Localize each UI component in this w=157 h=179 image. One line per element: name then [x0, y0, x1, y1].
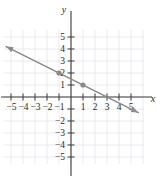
y-tick-label: −4 — [55, 140, 65, 150]
plotted-point — [80, 82, 85, 87]
line-arrowhead-left — [6, 47, 14, 53]
x-tick-label: −1 — [54, 102, 64, 112]
y-tick-label: −3 — [55, 128, 65, 138]
coordinate-plane-figure: −5−4−3−2−11234554321−2−3−4−5 y x — [0, 0, 157, 179]
x-tick-label: 2 — [93, 102, 98, 112]
graph-canvas: −5−4−3−2−11234554321−2−3−4−5 y x — [0, 0, 157, 179]
y-tick-label: 5 — [60, 32, 65, 42]
x-tick-label: 1 — [81, 102, 86, 112]
y-tick-label: 4 — [60, 44, 65, 54]
y-tick-label: 3 — [60, 56, 65, 66]
x-tick-label: −5 — [6, 102, 16, 112]
y-axis-label: y — [61, 4, 67, 15]
x-tick-label: 3 — [105, 102, 110, 112]
x-tick-label: −4 — [18, 102, 28, 112]
axes-group — [1, 11, 152, 176]
y-tick-label: −5 — [55, 152, 65, 162]
x-axis-label: x — [150, 93, 156, 104]
y-tick-label: −2 — [55, 116, 65, 126]
plotted-point — [56, 70, 61, 75]
y-tick-label: 1 — [60, 80, 65, 90]
x-tick-label: −2 — [42, 102, 52, 112]
x-tick-label: −3 — [30, 102, 40, 112]
